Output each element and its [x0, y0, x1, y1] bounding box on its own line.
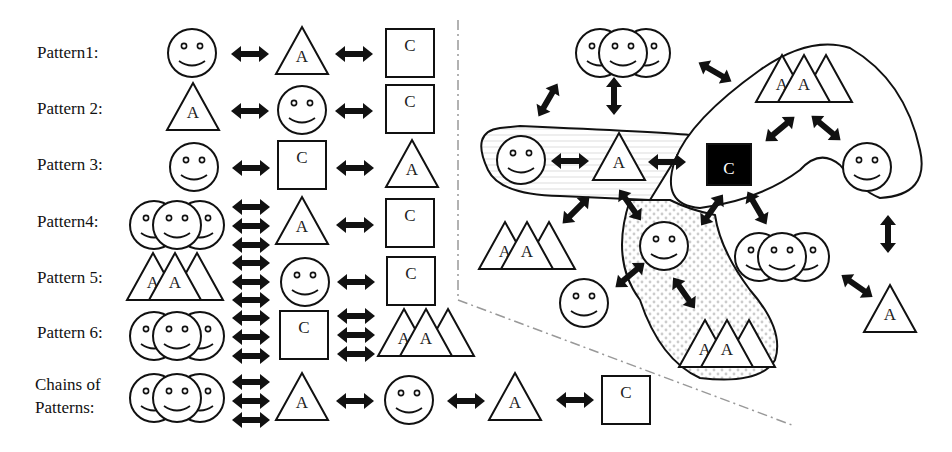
- smiley-icon: [640, 222, 688, 270]
- double-arrow-icon: [336, 160, 374, 176]
- double-arrow-icon: [232, 218, 270, 234]
- label-pattern1: Pattern1:: [37, 43, 98, 62]
- double-arrow-icon: [231, 46, 269, 62]
- square-content-icon: [386, 199, 434, 247]
- smiley-icon: [843, 143, 891, 191]
- double-arrow-icon: [556, 392, 594, 408]
- square-content-icon: [386, 85, 434, 133]
- smiley-icon: [281, 258, 329, 306]
- square-content-icon: [278, 141, 326, 189]
- triangle-agent-icon: [276, 27, 328, 74]
- double-arrow-icon: [232, 348, 270, 364]
- double-arrow-icon: [335, 103, 373, 119]
- triangle-agent-icon: [167, 83, 219, 130]
- double-arrow-icon: [447, 393, 485, 409]
- triangle-agent-icon: [276, 373, 328, 420]
- double-arrow-icon: [336, 217, 374, 233]
- double-arrow-icon: [337, 274, 375, 290]
- double-arrow-icon: [232, 255, 270, 271]
- triangle-group-icon: [479, 222, 575, 269]
- square-content-icon: [387, 257, 435, 305]
- double-arrow-icon: [337, 346, 375, 362]
- double-arrow-icon: [335, 46, 373, 62]
- double-arrow-icon: [232, 160, 270, 176]
- double-arrow-icon: [232, 412, 270, 428]
- svg-text:C: C: [723, 159, 734, 178]
- square-content-icon: [280, 311, 328, 359]
- double-arrow-icon: [231, 103, 269, 119]
- double-arrow-icon: [232, 374, 270, 390]
- triangle-agent-icon: [864, 285, 916, 332]
- smiley-icon: [278, 86, 326, 134]
- double-arrow-icon: [532, 80, 565, 121]
- label-pattern3: Pattern 3:: [37, 155, 103, 174]
- double-arrow-icon: [232, 292, 270, 308]
- double-arrow-icon: [337, 327, 375, 343]
- double-arrow-icon: [232, 393, 270, 409]
- pattern1-row: [168, 27, 434, 77]
- smiley-group-icon: [130, 201, 224, 249]
- pattern6-row: [130, 308, 474, 364]
- highlighted-content-square: C: [707, 144, 751, 185]
- smiley-icon: [497, 136, 545, 184]
- label-pattern4: Pattern4:: [37, 212, 98, 231]
- double-arrow-icon: [606, 77, 622, 115]
- smiley-group-icon: [130, 374, 224, 422]
- double-arrow-icon: [232, 310, 270, 326]
- smiley-group-icon: [735, 233, 829, 281]
- double-arrow-icon: [232, 329, 270, 345]
- triangle-group-icon: [378, 309, 474, 356]
- smiley-icon: [560, 279, 608, 327]
- double-arrow-icon: [336, 393, 374, 409]
- triangle-agent-icon: [386, 140, 438, 187]
- double-arrow-icon: [837, 269, 877, 304]
- pattern3-row: [170, 140, 438, 191]
- label-pattern5: Pattern 5:: [37, 268, 103, 287]
- pattern-diagram: A C Pattern1: Pattern 2: Pattern 3: Patt…: [0, 0, 952, 452]
- triangle-agent-icon: [276, 197, 328, 244]
- double-arrow-icon: [337, 308, 375, 324]
- chains-row: [130, 373, 650, 428]
- double-arrow-icon: [232, 237, 270, 253]
- triangle-group-icon: [127, 253, 223, 300]
- double-arrow-icon: [880, 215, 896, 253]
- pattern2-row: [167, 83, 434, 134]
- smiley-icon: [168, 29, 216, 77]
- double-arrow-icon: [695, 56, 736, 89]
- smiley-icon: [385, 376, 433, 424]
- label-chains-line1: Chains of: [35, 375, 101, 394]
- label-chains-line2: Patterns:: [35, 398, 95, 417]
- pattern5-row: [127, 253, 435, 308]
- label-pattern6: Pattern 6:: [37, 323, 103, 342]
- double-arrow-icon: [232, 274, 270, 290]
- double-arrow-icon: [232, 199, 270, 215]
- smiley-group-icon: [576, 29, 670, 77]
- label-pattern2: Pattern 2:: [37, 99, 103, 118]
- pattern4-row: [130, 197, 434, 253]
- square-content-icon: [602, 376, 650, 424]
- smiley-icon: [170, 143, 218, 191]
- smiley-group-icon: [130, 312, 224, 360]
- square-content-icon: [386, 29, 434, 77]
- triangle-agent-icon: [489, 373, 541, 420]
